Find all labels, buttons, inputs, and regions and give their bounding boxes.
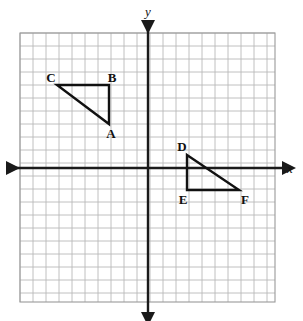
vertex-label-f: F [241,192,249,207]
vertex-label-e: E [179,192,188,207]
x-axis-label: x [286,161,293,176]
axes-group [8,22,284,314]
vertex-label-a: A [106,126,116,141]
vertex-label-d: D [177,139,186,154]
vertex-label-b: B [108,70,117,85]
vertex-label-c: C [46,70,55,85]
y-axis-label: y [143,4,151,19]
triangle-def [187,155,239,190]
triangle-abc [57,85,109,124]
coordinate-plane-figure: ABCDEF x y [0,0,303,321]
coordinate-plane-canvas: ABCDEF x y [0,0,303,321]
